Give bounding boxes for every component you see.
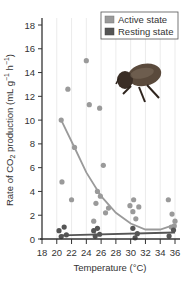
trend-lines — [61, 120, 175, 235]
y-tick-label: 8 — [30, 138, 35, 149]
trend-line — [61, 233, 175, 236]
data-point — [91, 219, 96, 224]
y-axis-title: Rate of CO2 production (mL g−1 h−1) — [3, 54, 16, 206]
data-point — [62, 225, 67, 230]
data-point — [64, 232, 69, 237]
data-point — [133, 216, 138, 221]
y-tick-label: 2 — [30, 210, 35, 221]
data-point — [136, 204, 141, 209]
data-point — [97, 232, 102, 237]
data-point — [172, 219, 177, 224]
data-point — [93, 233, 98, 238]
data-point — [103, 210, 108, 215]
x-tick-label: 24 — [81, 247, 92, 258]
data-point — [101, 163, 106, 168]
y-tick-label: 0 — [30, 234, 35, 245]
data-point — [72, 145, 77, 150]
data-point — [135, 231, 140, 236]
x-tick-label: 18 — [37, 247, 48, 258]
data-point — [169, 211, 174, 216]
vertical-gridlines — [57, 18, 175, 239]
data-point — [127, 203, 132, 208]
x-axis-ticks: 18202224262830323436 — [37, 239, 181, 258]
x-tick-label: 28 — [111, 247, 122, 258]
data-point — [130, 209, 135, 214]
x-tick-label: 30 — [125, 247, 136, 258]
x-tick-label: 20 — [51, 247, 62, 258]
x-axis-title: Temperature (°C) — [74, 262, 147, 273]
data-point — [56, 228, 61, 233]
data-point — [171, 227, 176, 232]
y-tick-label: 4 — [30, 186, 35, 197]
data-point — [59, 179, 64, 184]
legend-label-active: Active state — [118, 14, 167, 25]
beetle-icon — [116, 61, 163, 102]
x-tick-label: 22 — [66, 247, 77, 258]
y-tick-label: 18 — [24, 20, 35, 31]
x-tick-label: 36 — [170, 247, 181, 258]
data-point — [65, 87, 70, 92]
y-tick-label: 6 — [30, 162, 35, 173]
x-tick-label: 34 — [155, 247, 166, 258]
legend-swatch-active — [105, 16, 114, 23]
x-tick-label: 32 — [140, 247, 151, 258]
data-point — [69, 197, 74, 202]
data-point — [59, 118, 64, 123]
data-point — [84, 58, 89, 63]
data-point — [106, 205, 111, 210]
data-point — [166, 233, 171, 238]
legend-swatch-resting — [105, 28, 114, 35]
y-tick-label: 16 — [24, 43, 35, 54]
y-tick-label: 10 — [24, 115, 35, 126]
y-tick-label: 12 — [24, 91, 35, 102]
data-point — [87, 102, 92, 107]
data-point — [131, 197, 136, 202]
y-axis-ticks: 024681012141618 — [24, 20, 42, 245]
data-point — [130, 226, 135, 231]
data-point — [166, 197, 171, 202]
data-point — [98, 194, 103, 199]
y-tick-label: 14 — [24, 67, 35, 78]
legend: Active state Resting state — [101, 12, 178, 39]
chart: 024681012141618 18202224262830323436 Act… — [0, 0, 194, 290]
data-point — [95, 226, 100, 231]
data-point — [93, 201, 98, 206]
data-point — [97, 106, 102, 111]
x-tick-label: 26 — [96, 247, 107, 258]
data-point — [95, 189, 100, 194]
legend-label-resting: Resting state — [118, 26, 173, 37]
